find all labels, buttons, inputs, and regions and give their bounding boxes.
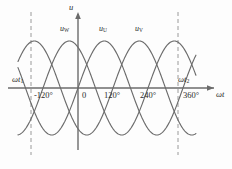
tick-label-minus-120: -120°	[34, 91, 53, 100]
tick-label-120: 120°	[104, 91, 120, 100]
tick-label-0: 0	[82, 91, 86, 100]
x-axis-arrow	[207, 85, 214, 91]
x-axis-label: ωt	[216, 90, 224, 99]
waveform-figure: u ωt uW uU uV -120° 0 120° 240° 360° ωt1…	[0, 0, 232, 169]
curve-label-u-U: uU	[99, 25, 107, 34]
marker-label-omega-t-2: ωt2	[178, 75, 189, 85]
y-axis-label: u	[69, 3, 73, 12]
tick-label-240: 240°	[140, 91, 156, 100]
tick-label-360: 360°	[183, 91, 199, 100]
curve-label-u-V: uV	[135, 25, 143, 34]
marker-label-omega-t-1: ωt1	[12, 75, 23, 85]
curve-label-u-W: uW	[60, 25, 69, 34]
waveform-plot	[0, 0, 232, 169]
y-axis-arrow	[75, 12, 81, 19]
